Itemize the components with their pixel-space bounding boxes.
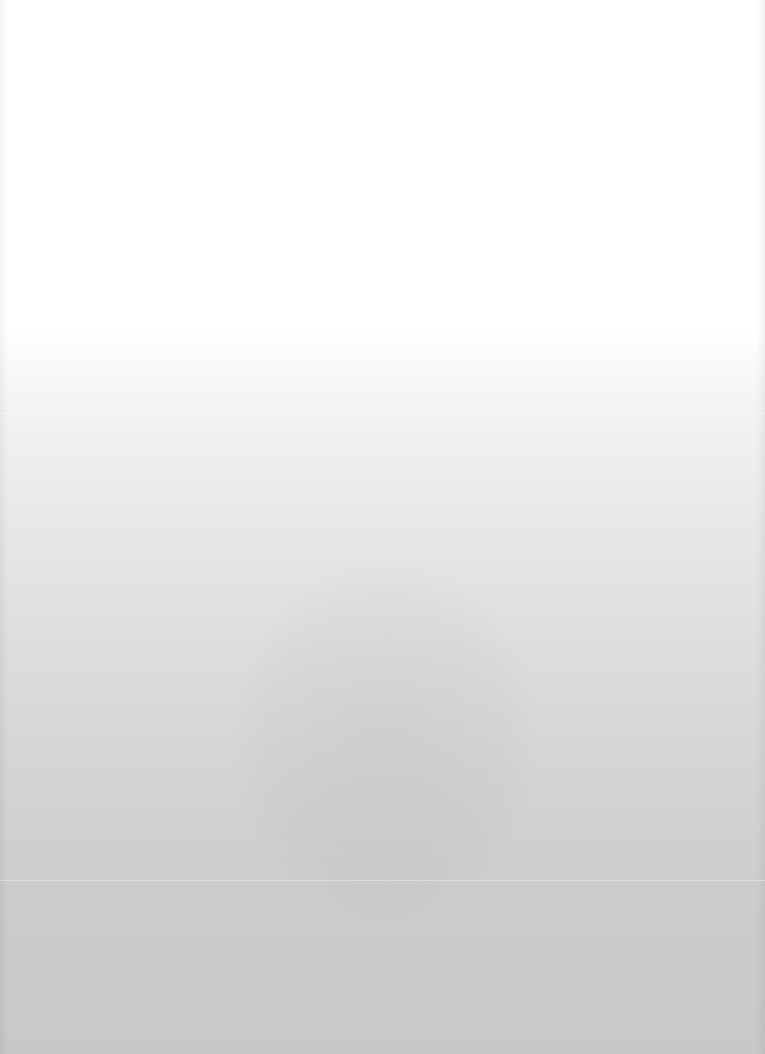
scan-artifact-line — [0, 413, 765, 414]
show-through-smudge — [235, 560, 535, 920]
blank-page — [0, 0, 765, 1054]
scan-artifact-line — [0, 880, 765, 881]
page-right-edge-shadow — [757, 0, 765, 1054]
page-left-edge-shadow — [0, 0, 8, 1054]
